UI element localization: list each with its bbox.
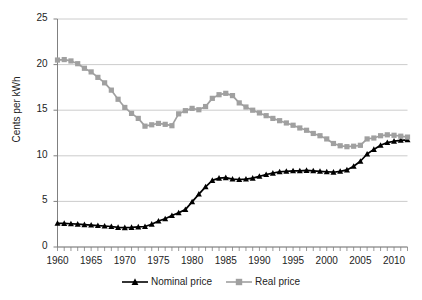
- data-point-marker: [102, 80, 107, 85]
- legend-label-nominal-price: Nominal price: [151, 276, 212, 287]
- data-point-marker: [163, 122, 168, 127]
- series-line-real-price: [58, 60, 408, 147]
- data-point-marker: [398, 134, 403, 139]
- data-point-marker: [304, 128, 309, 133]
- data-point-marker: [68, 58, 73, 63]
- data-point-marker: [183, 108, 188, 113]
- data-point-marker: [277, 118, 282, 123]
- data-point-marker: [216, 92, 221, 97]
- y-tick-label: 20: [26, 58, 48, 69]
- data-point-marker: [338, 143, 343, 148]
- data-point-marker: [203, 104, 208, 109]
- data-point-marker: [75, 61, 80, 66]
- data-point-marker: [115, 97, 120, 102]
- data-point-marker: [142, 124, 147, 129]
- data-point-marker: [156, 121, 161, 126]
- data-point-marker: [270, 116, 275, 121]
- legend-marker-square-icon: [226, 277, 252, 287]
- x-tick-label: 2010: [374, 255, 414, 266]
- data-point-marker: [391, 133, 396, 138]
- data-point-marker: [250, 108, 255, 113]
- data-point-marker: [358, 143, 363, 148]
- data-point-marker: [243, 104, 248, 109]
- series-line-nominal-price: [58, 140, 408, 228]
- y-tick-label: 25: [26, 12, 48, 23]
- data-point-marker: [122, 105, 127, 110]
- data-point-marker: [136, 116, 141, 121]
- data-point-marker: [223, 91, 228, 96]
- legend-label-real-price: Real price: [255, 276, 300, 287]
- data-point-marker: [331, 141, 336, 146]
- data-point-marker: [190, 106, 195, 111]
- data-point-marker: [311, 131, 316, 136]
- data-point-marker: [196, 107, 201, 112]
- data-point-marker: [89, 69, 94, 74]
- data-point-marker: [344, 144, 349, 149]
- data-point-marker: [371, 135, 376, 140]
- data-point-marker: [210, 96, 215, 101]
- data-point-marker: [109, 88, 114, 93]
- data-point-marker: [290, 123, 295, 128]
- data-point-marker: [237, 100, 242, 105]
- data-point-marker: [129, 111, 134, 116]
- data-point-marker: [169, 123, 174, 128]
- y-tick-label: 15: [26, 103, 48, 114]
- data-point-marker: [230, 93, 235, 98]
- legend-item-real-price[interactable]: Real price: [226, 276, 300, 287]
- data-point-marker: [378, 133, 383, 138]
- data-point-marker: [62, 57, 67, 62]
- data-point-marker: [385, 132, 390, 137]
- data-point-marker: [324, 136, 329, 141]
- data-point-marker: [55, 57, 60, 62]
- data-point-marker: [365, 136, 370, 141]
- y-tick-label: 10: [26, 149, 48, 160]
- data-point-marker: [82, 66, 87, 71]
- legend-marker-triangle-icon: [122, 277, 148, 287]
- data-point-marker: [351, 144, 356, 149]
- y-tick-label: 0: [26, 240, 48, 251]
- data-point-marker: [95, 75, 100, 80]
- data-point-marker: [284, 120, 289, 125]
- data-point-marker: [297, 125, 302, 130]
- data-point-marker: [264, 113, 269, 118]
- electricity-price-chart: Cents per kWh Nominal price Real price 0…: [0, 0, 422, 300]
- data-point-marker: [149, 122, 154, 127]
- data-point-marker: [176, 111, 181, 116]
- data-point-marker: [317, 133, 322, 138]
- data-point-marker: [405, 135, 410, 140]
- data-point-marker: [257, 110, 262, 115]
- y-tick-label: 5: [26, 194, 48, 205]
- legend-item-nominal-price[interactable]: Nominal price: [122, 276, 212, 287]
- chart-legend: Nominal price Real price: [0, 276, 422, 287]
